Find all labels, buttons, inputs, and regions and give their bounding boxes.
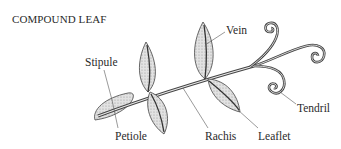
leaflet-lower-left [148,92,168,134]
label-leaflet: Leaflet [258,131,291,143]
leaflet-upper-right [195,22,214,79]
label-petiole: Petiole [115,131,147,143]
label-tendril: Tendril [297,103,330,115]
label-vein: Vein [226,25,247,37]
label-rachis: Rachis [205,131,236,143]
leader-tendril [280,92,296,104]
label-stipule: Stipule [85,57,118,69]
leader-rachis [183,88,208,128]
leaf-illustration [0,0,341,149]
leader-leaflet [238,110,258,128]
leader-stipule [104,70,112,100]
